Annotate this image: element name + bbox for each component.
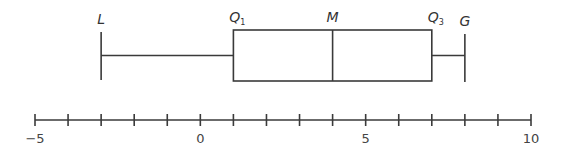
label-Q3: Q3	[428, 9, 444, 27]
axis-tick-label: 5	[362, 131, 370, 146]
box-plot: L Q1 M Q3 G −50510	[0, 0, 561, 155]
label-G: G	[459, 13, 470, 29]
axis-tick-label: −5	[25, 131, 44, 146]
label-Q1: Q1	[229, 9, 245, 27]
axis-tick-label: 10	[523, 131, 540, 146]
number-line: −50510	[25, 114, 539, 146]
label-L: L	[97, 11, 105, 27]
label-median: M	[327, 9, 339, 25]
axis-tick-label: 0	[196, 131, 204, 146]
